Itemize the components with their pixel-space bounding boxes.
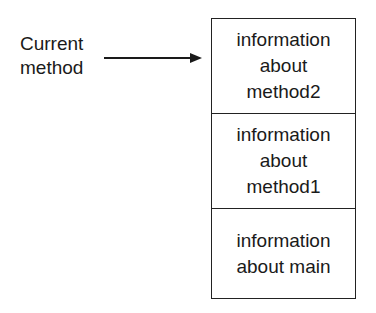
label-line-1: Current <box>20 32 83 56</box>
frame-line: about main <box>236 254 330 280</box>
label-line-2: method <box>20 56 83 80</box>
frame-line: information <box>237 27 331 53</box>
frame-line: method2 <box>247 79 321 105</box>
frame-line: about <box>260 53 308 79</box>
arrow-right-icon <box>104 52 204 64</box>
stack-frame-method1: information about method1 <box>212 114 355 209</box>
frame-line: information <box>237 122 331 148</box>
current-method-label: Current method <box>20 32 83 80</box>
frame-line: method1 <box>247 174 321 200</box>
stack-frame-method2: information about method2 <box>212 19 355 114</box>
stack-frame-main: information about main <box>212 209 355 299</box>
call-stack: information about method2 information ab… <box>211 18 356 299</box>
frame-line: information <box>237 228 331 254</box>
frame-line: about <box>260 148 308 174</box>
